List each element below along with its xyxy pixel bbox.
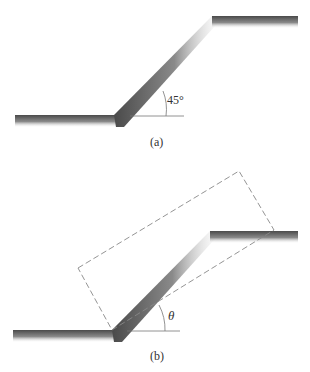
slope-face-b: [112, 231, 222, 342]
diagram-canvas: [0, 0, 310, 372]
angle-arc-a: [163, 91, 166, 116]
dashed-sliding-block: [78, 171, 274, 330]
slope-face-a: [114, 16, 224, 127]
angle-label-a: 45°: [167, 94, 184, 106]
angle-arc-b: [159, 305, 165, 331]
ground-left-a: [15, 115, 116, 127]
ground-left-b: [13, 330, 114, 342]
ground-top-a: [212, 16, 298, 28]
figure-b: [13, 171, 298, 342]
figure-a: [15, 16, 298, 127]
caption-b: (b): [150, 350, 164, 362]
caption-a: (a): [150, 136, 163, 148]
ground-top-b: [210, 231, 298, 243]
angle-label-b: θ: [168, 310, 174, 322]
